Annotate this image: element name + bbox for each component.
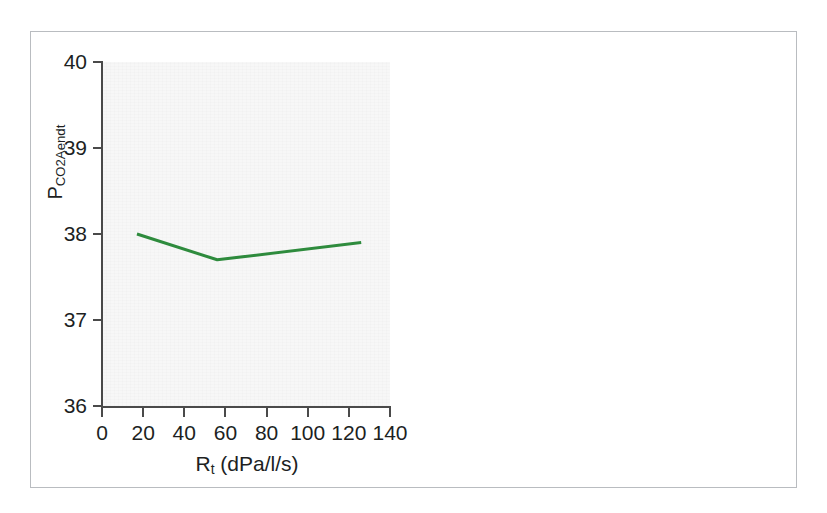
data-line-series-0 xyxy=(137,234,361,260)
figure-frame: 3637383940 020406080100120140 PCO2Aendt … xyxy=(30,31,797,488)
line-chart: 3637383940 020406080100120140 PCO2Aendt … xyxy=(31,32,798,489)
data-series-layer xyxy=(31,32,798,489)
